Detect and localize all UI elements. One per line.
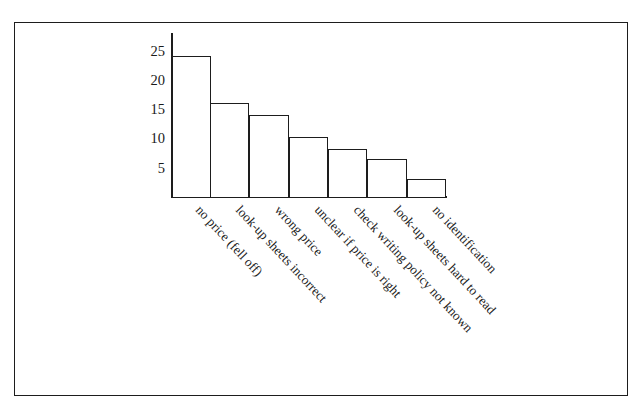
figure-frame: 510152025 no price (fell off)look-up she… <box>14 22 628 396</box>
bar <box>328 149 367 197</box>
bar-series <box>172 33 448 197</box>
y-axis-tick-labels: 510152025 <box>113 23 165 198</box>
bar <box>210 103 249 197</box>
bar <box>249 115 288 197</box>
bar-chart: 510152025 no price (fell off)look-up she… <box>15 23 629 397</box>
bar <box>367 159 406 197</box>
y-tick-label-20: 20 <box>119 73 165 88</box>
y-tick-label-10: 10 <box>119 131 165 146</box>
y-tick-label-5: 5 <box>119 161 165 176</box>
y-tick-label-15: 15 <box>119 102 165 117</box>
cut-off-header-remnant <box>0 0 644 12</box>
y-tick-label-25: 25 <box>119 44 165 59</box>
x-axis-category-labels: no price (fell off)look-up sheets incorr… <box>172 201 472 391</box>
bar <box>289 137 328 197</box>
bar <box>172 56 211 197</box>
bar <box>407 179 446 197</box>
